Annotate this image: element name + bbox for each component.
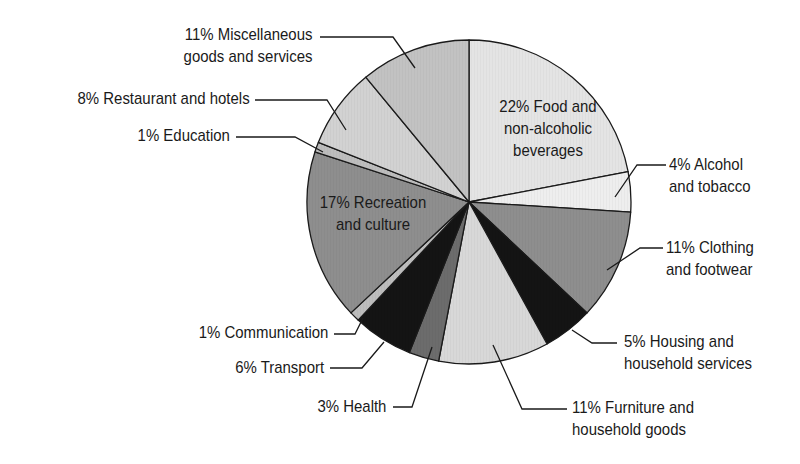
label-food-line1: 22% Food and bbox=[486, 96, 609, 118]
label-clothing: 11% Clothing and footwear bbox=[666, 237, 754, 281]
label-misc: 11% Miscellaneous goods and services bbox=[183, 24, 312, 68]
label-restaurant: 8% Restaurant and hotels bbox=[78, 88, 250, 110]
leader-line-transport bbox=[330, 342, 384, 368]
leader-line-housing bbox=[572, 330, 617, 343]
label-recreation-line1: 17% Recreation bbox=[311, 192, 434, 214]
label-health: 3% Health bbox=[317, 396, 386, 418]
label-transport-text: 6% Transport bbox=[235, 357, 324, 379]
label-housing-line2: household services bbox=[624, 353, 752, 375]
label-food-line3: beverages bbox=[486, 140, 609, 162]
label-furniture: 11% Furniture and household goods bbox=[572, 397, 694, 441]
label-housing-line1: 5% Housing and bbox=[624, 331, 752, 353]
label-clothing-line1: 11% Clothing bbox=[666, 237, 754, 259]
label-education: 1% Education bbox=[138, 125, 230, 147]
label-furniture-line2: household goods bbox=[572, 419, 694, 441]
label-transport: 6% Transport bbox=[235, 357, 324, 379]
leader-line-education bbox=[236, 137, 323, 152]
label-alcohol-line1: 4% Alcohol bbox=[669, 154, 751, 176]
label-communication-text: 1% Communication bbox=[198, 322, 328, 344]
label-misc-line1: 11% Miscellaneous bbox=[183, 24, 312, 46]
label-food-line2: non-alcoholic bbox=[486, 118, 609, 140]
label-alcohol-line2: and tobacco bbox=[669, 176, 751, 198]
label-health-text: 3% Health bbox=[317, 396, 386, 418]
label-education-text: 1% Education bbox=[138, 125, 230, 147]
label-misc-line2: goods and services bbox=[183, 46, 312, 68]
label-clothing-line2: and footwear bbox=[666, 259, 754, 281]
label-furniture-line1: 11% Furniture and bbox=[572, 397, 694, 419]
label-food: 22% Food and non-alcoholic beverages bbox=[486, 96, 609, 162]
label-recreation-line2: and culture bbox=[311, 214, 434, 236]
label-restaurant-text: 8% Restaurant and hotels bbox=[78, 88, 250, 110]
label-communication: 1% Communication bbox=[198, 322, 328, 344]
label-housing: 5% Housing and household services bbox=[624, 331, 752, 375]
label-alcohol: 4% Alcohol and tobacco bbox=[669, 154, 751, 198]
label-recreation: 17% Recreation and culture bbox=[311, 192, 434, 236]
